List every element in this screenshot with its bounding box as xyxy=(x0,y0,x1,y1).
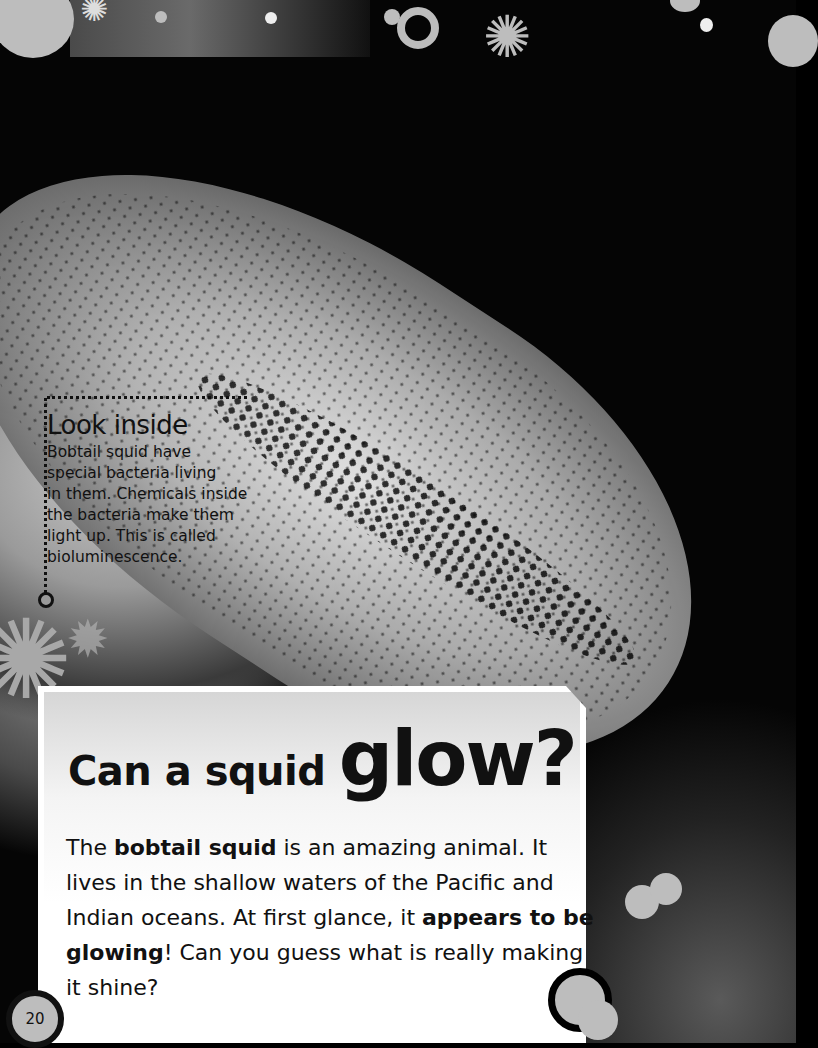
germ-icon: ✺ xyxy=(483,8,532,66)
main-text-card: Can a squid glow? The bobtail squid is a… xyxy=(38,686,586,1043)
page-number: 20 xyxy=(6,990,64,1048)
bubble-icon xyxy=(384,9,400,25)
ring-icon xyxy=(38,592,54,608)
germ-icon: ✺ xyxy=(80,0,109,26)
bubble-icon xyxy=(768,15,818,67)
look-inside-title: Look inside xyxy=(47,410,287,440)
bubble-icon xyxy=(155,11,167,23)
bubble-icon xyxy=(700,18,713,32)
look-inside-box: Look inside Bobtail squid have special b… xyxy=(47,396,287,568)
intro-paragraph: The bobtail squid is an amazing animal. … xyxy=(66,830,596,1005)
ring-icon xyxy=(397,7,439,49)
look-inside-text: Bobtail squid have special bacteria livi… xyxy=(47,442,287,568)
germ-icon: ✹ xyxy=(66,613,110,665)
double-bubble-icon xyxy=(578,1000,618,1040)
double-bubble-icon xyxy=(650,873,682,905)
page-title: Can a squid glow? xyxy=(68,714,576,803)
bubble-icon xyxy=(265,12,277,24)
top-decor-strip xyxy=(70,0,370,57)
